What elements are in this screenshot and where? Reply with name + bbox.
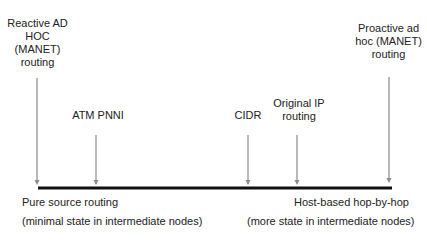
label-line: HOC	[0, 30, 75, 43]
label-line: routing	[0, 56, 75, 69]
label-cidr: CIDR	[228, 109, 268, 122]
label-line: routing	[350, 48, 427, 61]
arrow-atm-pnni	[94, 135, 99, 185]
label-line: hoc (MANET)	[350, 35, 427, 48]
arrow-proactive-adhoc	[387, 77, 392, 183]
label-original-ip: Original IP routing	[266, 97, 332, 123]
right-end-title: Host-based hop-by-hop	[294, 196, 409, 209]
left-end-title: Pure source routing	[22, 196, 118, 209]
left-end-subtitle: (minimal state in intermediate nodes)	[22, 215, 202, 228]
label-line: ATM PNNI	[66, 109, 130, 122]
label-atm-pnni: ATM PNNI	[66, 109, 130, 122]
label-proactive-adhoc: Proactive ad hoc (MANET) routing	[350, 22, 427, 61]
label-line: Proactive ad	[350, 22, 427, 35]
arrow-reactive-adhoc	[35, 78, 40, 185]
label-line: Reactive AD	[0, 17, 75, 30]
arrow-original-ip	[295, 135, 300, 185]
label-line: CIDR	[228, 109, 268, 122]
label-line: (MANET)	[0, 43, 75, 56]
label-reactive-adhoc: Reactive AD HOC (MANET) routing	[0, 17, 75, 69]
label-line: Original IP	[266, 97, 332, 110]
label-line: routing	[266, 110, 332, 123]
right-end-subtitle: (more state in intermediate nodes)	[247, 215, 415, 228]
arrow-cidr	[246, 135, 251, 185]
